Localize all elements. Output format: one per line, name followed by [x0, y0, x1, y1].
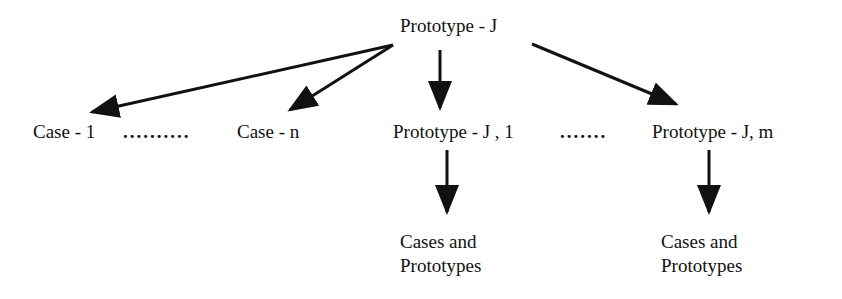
node-cases-prototypes-2-line1: Cases and — [661, 230, 742, 254]
node-cases-prototypes-1: Cases and Prototypes — [400, 230, 481, 278]
edge-root-to-case-1 — [92, 45, 393, 112]
node-cases-prototypes-1-line1: Cases and — [400, 230, 481, 254]
node-case-1: Case - 1 — [33, 121, 95, 143]
node-cases-prototypes-2-line2: Prototypes — [661, 254, 742, 278]
node-prototype-j-m: Prototype - J, m — [652, 121, 773, 143]
cases-ellipsis: .......... — [123, 121, 191, 143]
node-cases-prototypes-1-line2: Prototypes — [400, 254, 481, 278]
node-prototype-j: Prototype - J — [400, 15, 497, 37]
prototypes-ellipsis: ....... — [560, 121, 607, 143]
node-prototype-j-1: Prototype - J , 1 — [393, 121, 514, 143]
edge-root-to-prototype-jm — [532, 44, 676, 104]
node-case-n: Case - n — [237, 121, 299, 143]
node-cases-prototypes-2: Cases and Prototypes — [661, 230, 742, 278]
edge-root-to-case-n — [290, 45, 393, 110]
